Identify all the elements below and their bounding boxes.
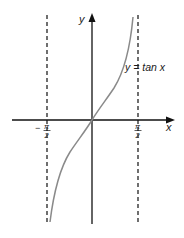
x-axis-label: x [165,121,172,133]
y-axis-label: y [78,13,86,25]
y-axis-arrow-icon [89,13,96,22]
tan-graph: y x y = tan x − π 2 π 2 [0,0,184,238]
tick-label-pi-over-2: π 2 [135,122,142,140]
svg-text:2: 2 [44,131,50,140]
tick-label-neg-pi-over-2: − π 2 [35,122,51,140]
svg-text:−: − [35,123,40,133]
svg-text:2: 2 [135,131,141,140]
curve-label: y = tan x [124,61,166,73]
